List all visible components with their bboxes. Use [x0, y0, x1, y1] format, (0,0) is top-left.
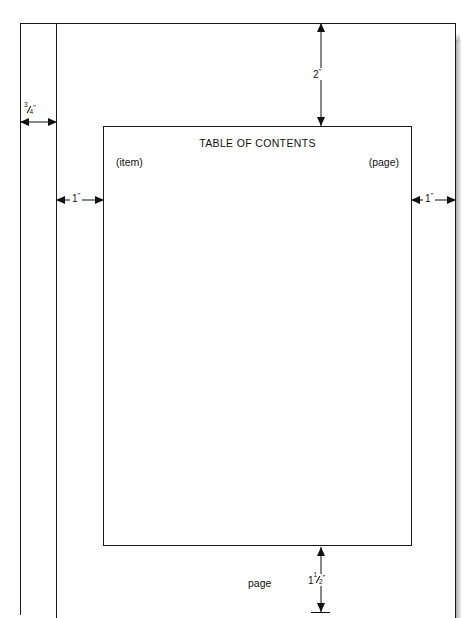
- toc-item-column-label: (item): [116, 156, 143, 168]
- page-number-caption: page: [248, 577, 271, 589]
- fraction-denominator: 2: [319, 579, 323, 586]
- dimension-label-left-margin: 1": [70, 192, 82, 204]
- toc-heading: TABLE OF CONTENTS: [104, 137, 411, 149]
- arrowhead-down-icon: [317, 117, 325, 126]
- toc-page-column-label: (page): [369, 156, 399, 168]
- arrowhead-up-icon: [317, 23, 325, 32]
- arrowhead-left-icon: [56, 196, 65, 204]
- dimension-label-top-margin: 2": [311, 68, 323, 80]
- fraction-denominator: 4: [29, 109, 33, 116]
- sheet-top-edge: [20, 23, 456, 24]
- dimension-bottom-tick: [311, 612, 330, 613]
- arrowhead-right-icon: [48, 118, 57, 126]
- arrowhead-left-icon: [20, 118, 29, 126]
- dimension-label-right-margin: 1": [423, 192, 435, 204]
- arrowhead-down-icon: [317, 603, 325, 612]
- fraction-three-quarters: 3 4: [24, 104, 33, 114]
- inch-mark: ": [323, 573, 326, 582]
- dimension-binding-margin: [20, 116, 57, 127]
- fraction-numerator: 1: [314, 572, 318, 579]
- arrowhead-right-icon: [447, 196, 456, 204]
- page-layout-diagram: TABLE OF CONTENTS (item) (page) 3 4 " 1"…: [0, 0, 466, 618]
- sheet-drop-shadow: [456, 40, 462, 618]
- inch-mark: ": [33, 103, 36, 112]
- dimension-label-binding-margin: 3 4 ": [22, 104, 38, 116]
- arrowhead-up-icon: [317, 547, 325, 556]
- arrowhead-right-icon: [95, 196, 104, 204]
- type-block-outline: TABLE OF CONTENTS (item) (page): [103, 126, 412, 546]
- inch-mark: ": [319, 67, 322, 76]
- fraction-numerator: 3: [24, 102, 28, 109]
- dimension-label-bottom-margin: 112": [306, 574, 327, 586]
- sheet-left-edge: [20, 23, 21, 615]
- arrowhead-left-icon: [411, 196, 420, 204]
- binding-edge-rule: [56, 23, 57, 618]
- fraction-one-half: 12: [314, 574, 323, 584]
- inch-mark: ": [78, 191, 81, 200]
- inch-mark: ": [431, 191, 434, 200]
